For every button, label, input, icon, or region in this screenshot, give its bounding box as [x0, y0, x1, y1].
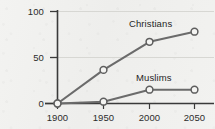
data-point-christians-1950 — [100, 67, 107, 74]
x-axis-tick-label-2050: 2050 — [173, 112, 215, 123]
data-point-christians-2000 — [146, 38, 153, 45]
y-axis-tick-label-100: 100 — [14, 6, 44, 17]
data-point-christians-2050 — [191, 28, 198, 35]
x-axis-tick-label-1950: 1950 — [82, 112, 125, 123]
data-point-muslims-1950 — [100, 98, 107, 105]
series-muslims-line — [58, 90, 195, 104]
line-chart: 100 50 0 1900 1950 2000 2050 Christians … — [0, 0, 215, 129]
data-point-muslims-2000 — [146, 86, 153, 93]
chart-plot-area — [0, 0, 215, 129]
data-point-muslims-2050 — [191, 86, 198, 93]
x-axis-tick-label-2000: 2000 — [128, 112, 171, 123]
data-point-muslims-1900 — [54, 100, 61, 107]
x-axis-ticks — [58, 104, 195, 110]
y-axis-tick-label-50: 50 — [14, 52, 44, 63]
series-label-muslims: Muslims — [136, 72, 172, 83]
y-axis-tick-label-0: 0 — [14, 98, 44, 109]
series-christians-line — [58, 32, 195, 104]
y-axis-ticks — [45, 12, 58, 104]
x-axis-tick-label-1900: 1900 — [36, 112, 79, 123]
series-label-christians: Christians — [129, 18, 172, 29]
